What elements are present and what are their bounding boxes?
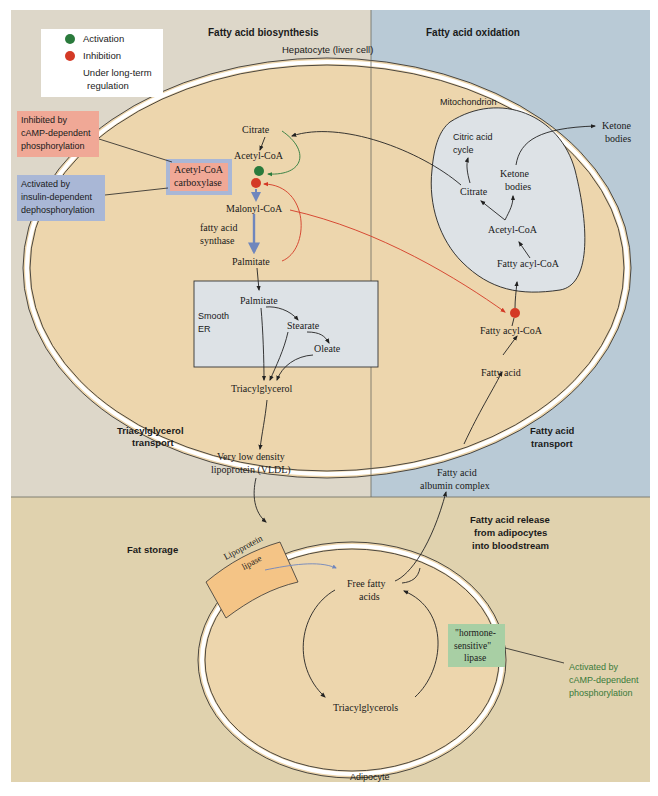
hepatocyte-label: Hepatocyte (liver cell)	[282, 44, 373, 55]
activation-legend-icon	[65, 34, 75, 44]
legend-longterm-label-2: regulation	[87, 80, 129, 91]
activated-text-3: dephosphorylation	[21, 205, 95, 215]
activation-dot	[254, 166, 264, 176]
diagram-canvas	[0, 0, 658, 796]
inhibition-dot-acc	[251, 178, 261, 188]
legend-longterm-label-1: Under long-term	[83, 67, 152, 78]
section-fa-release-2: from adipocytes	[474, 527, 547, 538]
fattyacid-liver: Fatty acid	[481, 367, 521, 378]
vldl-label-2: lipoprotein (VLDL)	[211, 464, 291, 475]
ketone-mito-2: bodies	[505, 181, 531, 192]
activated-text-1: Activated by	[21, 179, 70, 189]
fattyacylcoa-cytosol: Fatty acyl-CoA	[480, 325, 542, 336]
inhibited-text-1: Inhibited by	[21, 115, 67, 125]
ketone-out-2: bodies	[605, 133, 631, 144]
mitochondrion-label: Mitochondrion	[440, 97, 497, 107]
triacylglycerols-adipocyte: Triacylglycerols	[333, 702, 398, 713]
hsl-label-2: sensitive"	[454, 641, 491, 651]
triacylglycerol-liver: Triacylglycerol	[231, 383, 292, 394]
hsl-label-3: lipase	[464, 653, 486, 663]
section-fa-release-1: Fatty acid release	[470, 514, 550, 525]
legend: Activation Inhibition Under long-term re…	[41, 29, 163, 97]
free-fatty-acids-1: Free fatty	[347, 578, 386, 589]
hsl-activated-3: phosphorylation	[569, 688, 633, 698]
malonylcoa: Malonyl-CoA	[226, 203, 282, 214]
fas-label-2: synthase	[200, 235, 234, 246]
section-oxidation: Fatty acid oxidation	[426, 27, 520, 38]
ketone-out-1: Ketone	[602, 120, 631, 131]
citric-acid-cycle-2: cycle	[453, 145, 474, 155]
section-fa-transport-2: transport	[531, 438, 573, 449]
hsl-activated-2: cAMP-dependent	[569, 675, 639, 685]
oleate: Oleate	[314, 343, 340, 354]
legend-activation-label: Activation	[83, 33, 124, 44]
palmitate-cytosol: Palmitate	[232, 256, 270, 267]
stearate: Stearate	[287, 320, 319, 331]
ketone-mito-1: Ketone	[500, 168, 529, 179]
smooth-er-label-2: ER	[198, 324, 211, 334]
section-fa-transport-1: Fatty acid	[530, 425, 574, 436]
section-fat-storage: Fat storage	[127, 544, 178, 555]
fattyacylcoa-mito: Fatty acyl-CoA	[497, 258, 559, 269]
citrate-mito: Citrate	[460, 186, 487, 197]
fa-albumin-2: albumin complex	[420, 480, 490, 491]
hsl-activated-1: Activated by	[569, 662, 618, 672]
section-biosynthesis: Fatty acid biosynthesis	[208, 27, 319, 38]
activated-text-2: insulin-dependent	[21, 192, 92, 202]
legend-inhibition-label: Inhibition	[83, 50, 121, 61]
acc-label-2: carboxylase	[174, 177, 222, 188]
smooth-er-box	[194, 281, 378, 367]
vldl-label-1: Very low density	[217, 451, 285, 462]
acc-label-1: Acetyl-CoA	[174, 164, 223, 175]
section-tg-transport-1: Triacylglycerol	[117, 425, 184, 436]
citrate-cytosol: Citrate	[242, 124, 269, 135]
acetylcoa-cytosol: Acetyl-CoA	[234, 150, 283, 161]
inhibited-text-2: cAMP-dependent	[21, 128, 91, 138]
section-tg-transport-2: transport	[132, 437, 174, 448]
fas-label-1: fatty acid	[200, 222, 237, 233]
acetylcoa-mito: Acetyl-CoA	[488, 224, 537, 235]
citric-acid-cycle-1: Citric acid	[453, 132, 493, 142]
free-fatty-acids-2: acids	[359, 591, 380, 602]
inhibition-dot-cpt	[510, 308, 520, 318]
section-fa-release-3: into bloodstream	[472, 540, 549, 551]
smooth-er-label-1: Smooth	[198, 311, 229, 321]
palmitate-er: Palmitate	[240, 295, 278, 306]
fa-albumin-1: Fatty acid	[437, 467, 477, 478]
inhibited-text-3: phosphorylation	[21, 141, 85, 151]
inhibition-legend-icon	[65, 51, 75, 61]
adipocyte-label: Adipocyte	[350, 772, 390, 782]
hsl-label-1: "hormone-	[455, 628, 496, 638]
